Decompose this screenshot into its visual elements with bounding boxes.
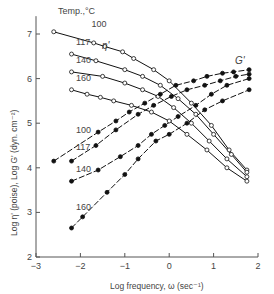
filled-circle-marker <box>96 130 100 134</box>
g-annotation: G' <box>235 55 246 66</box>
filled-circle-marker <box>174 83 178 87</box>
filled-circle-marker <box>234 74 238 78</box>
open-circle-marker <box>207 139 211 143</box>
open-circle-marker <box>149 110 153 114</box>
filled-circle-marker <box>176 115 180 119</box>
filled-circle-marker <box>70 226 74 230</box>
x-tick-label: −1 <box>120 261 130 271</box>
filled-circle-marker <box>114 128 118 132</box>
filled-circle-marker <box>218 79 222 83</box>
filled-circle-marker <box>247 72 251 76</box>
open-circle-marker <box>92 41 96 45</box>
legend-title: Temp.,°C <box>58 6 96 16</box>
y-tick-label: 7 <box>27 29 32 39</box>
open-circle-marker <box>141 74 145 78</box>
open-circle-marker <box>189 101 193 105</box>
open-circle-marker <box>112 99 116 103</box>
temperature-label: 160 <box>76 202 91 212</box>
open-circle-marker <box>245 170 249 174</box>
y-axis-label: Log η' (poise), Log G' (dyn. cm⁻²) <box>9 109 19 236</box>
filled-circle-marker <box>158 92 162 96</box>
temperature-label: 100 <box>92 19 107 29</box>
curve-eta-160 <box>72 90 247 181</box>
open-circle-marker <box>152 68 156 72</box>
open-circle-marker <box>194 112 198 116</box>
filled-circle-marker <box>136 157 140 161</box>
filled-circle-marker <box>192 79 196 83</box>
open-circle-marker <box>123 81 127 85</box>
open-circle-marker <box>158 83 162 87</box>
filled-circle-marker <box>105 190 109 194</box>
open-circle-marker <box>227 148 231 152</box>
open-circle-marker <box>121 50 125 54</box>
open-circle-marker <box>189 121 193 125</box>
filled-circle-marker <box>52 159 56 163</box>
open-circle-marker <box>70 88 74 92</box>
open-circle-marker <box>141 88 145 92</box>
open-circle-marker <box>209 123 213 127</box>
open-circle-marker <box>85 92 89 96</box>
filled-circle-marker <box>143 101 147 105</box>
filled-circle-marker <box>247 68 251 72</box>
filled-circle-marker <box>94 144 98 148</box>
filled-circle-marker <box>81 215 85 219</box>
filled-circle-marker <box>203 108 207 112</box>
open-circle-marker <box>205 148 209 152</box>
open-circle-marker <box>167 79 171 83</box>
filled-circle-marker <box>225 83 229 87</box>
y-tick-label: 2 <box>27 252 32 262</box>
open-circle-marker <box>98 95 102 99</box>
open-circle-marker <box>167 119 171 123</box>
filled-circle-marker <box>136 112 140 116</box>
y-tick-label: 3 <box>27 207 32 217</box>
temperature-label: 117 <box>76 142 90 152</box>
filled-circle-marker <box>247 77 251 81</box>
open-circle-marker <box>176 97 180 101</box>
open-circle-marker <box>185 132 189 136</box>
filled-circle-marker <box>169 94 173 98</box>
y-tick-label: 4 <box>27 163 32 173</box>
temperature-label: 160 <box>76 73 91 83</box>
open-circle-marker <box>101 74 105 78</box>
temperature-label: 140 <box>76 164 91 174</box>
curve-G-160 <box>72 90 250 228</box>
eta-annotation: η' <box>102 40 111 51</box>
filled-circle-marker <box>118 155 122 159</box>
filled-circle-marker <box>209 92 213 96</box>
curve-eta-140 <box>72 72 247 177</box>
filled-circle-marker <box>205 74 209 78</box>
open-circle-marker <box>172 106 176 110</box>
filled-circle-marker <box>185 88 189 92</box>
temperature-label: 100 <box>76 125 91 135</box>
filled-circle-marker <box>149 132 153 136</box>
filled-circle-marker <box>194 103 198 107</box>
filled-circle-marker <box>232 70 236 74</box>
open-circle-marker <box>225 157 229 161</box>
open-circle-marker <box>70 70 74 74</box>
filled-circle-marker <box>136 144 140 148</box>
open-circle-marker <box>52 30 56 34</box>
filled-circle-marker <box>163 123 167 127</box>
filled-circle-marker <box>70 159 74 163</box>
open-circle-marker <box>245 175 249 179</box>
x-tick-label: 1 <box>211 261 216 271</box>
x-axis-label: Log frequency, ω (sec⁻¹) <box>110 281 204 291</box>
x-tick-label: −2 <box>75 261 85 271</box>
open-circle-marker <box>245 179 249 183</box>
filled-circle-marker <box>154 139 158 143</box>
filled-circle-marker <box>167 132 171 136</box>
y-tick-label: 6 <box>27 74 32 84</box>
filled-circle-marker <box>70 179 74 183</box>
filled-circle-marker <box>96 168 100 172</box>
y-tick-label: 5 <box>27 118 32 128</box>
filled-circle-marker <box>114 119 118 123</box>
filled-circle-marker <box>152 103 156 107</box>
temperature-label: 117 <box>76 37 90 47</box>
filled-circle-marker <box>220 71 224 75</box>
open-circle-marker <box>212 132 216 136</box>
filled-circle-marker <box>123 172 127 176</box>
open-circle-marker <box>70 52 74 56</box>
filled-circle-marker <box>127 110 131 114</box>
x-tick-label: −3 <box>31 261 41 271</box>
temperature-label: 140 <box>76 55 91 65</box>
